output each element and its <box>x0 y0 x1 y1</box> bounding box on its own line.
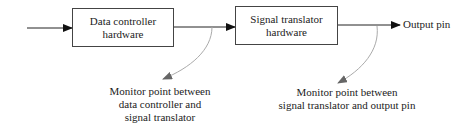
monitor-point-2-label: Monitor point between signal translator … <box>262 86 432 112</box>
label-line: Monitor point between <box>262 86 432 99</box>
block-label-line: Signal translator <box>250 13 322 26</box>
label-line: signal translator <box>100 111 220 124</box>
signal-translator-block: Signal translator hardware <box>235 6 338 45</box>
monitor-arrow-2 <box>338 26 377 83</box>
label-line: data controller and <box>100 98 220 111</box>
label-line: Monitor point between <box>100 85 220 98</box>
output-pin-label: Output pin <box>403 18 450 31</box>
block-label-line: hardware <box>250 26 322 39</box>
label-line: signal translator and output pin <box>262 99 432 112</box>
block-label-line: Data controller <box>90 15 156 28</box>
data-controller-block: Data controller hardware <box>72 8 174 47</box>
block-label-line: hardware <box>90 28 156 41</box>
monitor-point-1-label: Monitor point between data controller an… <box>100 85 220 124</box>
